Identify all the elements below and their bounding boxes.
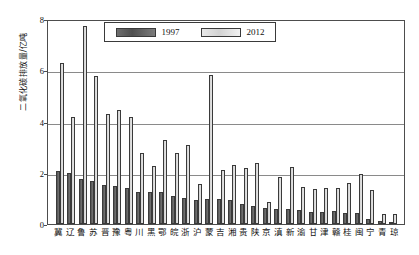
x-tick-label: 晋 <box>99 228 111 237</box>
y-tick-label: 2 <box>34 170 44 179</box>
bar-2012-蒙 <box>209 75 213 224</box>
co2-emissions-bar-chart: 二氧化碳排放量/亿吨 02468 冀辽鲁苏晋豫粤川黑鄂皖浙沪蒙吉湘贵陕京滇新渝甘… <box>0 0 419 255</box>
bar-series-container <box>48 21 404 224</box>
x-tick-label: 贵 <box>238 228 250 237</box>
bar-2012-冀 <box>60 63 64 224</box>
x-tick-label: 粤 <box>122 228 134 237</box>
x-axis-labels: 冀辽鲁苏晋豫粤川黑鄂皖浙沪蒙吉湘贵陕京滇新渝甘津赣桂闽宁青琼 <box>47 228 405 237</box>
x-tick-label: 沪 <box>192 228 204 237</box>
bar-2012-甘 <box>313 189 317 224</box>
bar-group <box>100 21 112 224</box>
x-tick-label: 闽 <box>354 228 366 237</box>
x-tick-label: 陕 <box>250 228 262 237</box>
bar-group <box>181 21 193 224</box>
x-tick-label: 宁 <box>365 228 377 237</box>
x-tick-label: 湘 <box>226 228 238 237</box>
bar-group <box>77 21 89 224</box>
x-tick-label: 豫 <box>111 228 123 237</box>
x-tick-label: 新 <box>284 228 296 237</box>
x-tick-label: 桂 <box>342 228 354 237</box>
bar-2012-贵 <box>244 168 248 224</box>
x-tick-label: 蒙 <box>203 228 215 237</box>
bar-group <box>204 21 216 224</box>
bar-2012-粤 <box>129 117 133 224</box>
bar-group <box>342 21 354 224</box>
y-tick-label: 8 <box>34 16 44 25</box>
bar-2012-沪 <box>198 184 202 224</box>
y-tick-mark <box>44 174 47 175</box>
bar-group <box>365 21 377 224</box>
y-tick-mark <box>44 71 47 72</box>
bar-group <box>89 21 101 224</box>
x-tick-label: 辽 <box>65 228 77 237</box>
x-tick-label: 京 <box>261 228 273 237</box>
x-tick-label: 冀 <box>53 228 65 237</box>
x-tick-label: 滇 <box>273 228 285 237</box>
bar-group <box>376 21 388 224</box>
bar-2012-新 <box>290 167 294 224</box>
bar-group <box>261 21 273 224</box>
bar-group <box>227 21 239 224</box>
bar-group <box>238 21 250 224</box>
y-tick-label: 6 <box>34 67 44 76</box>
bar-group <box>215 21 227 224</box>
x-tick-label: 津 <box>319 228 331 237</box>
bar-2012-鄂 <box>163 140 167 224</box>
bar-2012-桂 <box>347 183 351 224</box>
x-tick-label: 鲁 <box>76 228 88 237</box>
x-tick-label: 吉 <box>215 228 227 237</box>
bar-group <box>284 21 296 224</box>
bar-2012-豫 <box>117 110 121 224</box>
x-tick-label: 黑 <box>146 228 158 237</box>
x-tick-label: 甘 <box>307 228 319 237</box>
x-tick-label: 苏 <box>88 228 100 237</box>
bar-2012-琼 <box>393 214 397 224</box>
x-tick-label: 青 <box>377 228 389 237</box>
legend-item-2012: 2012 <box>201 27 265 37</box>
dark-gray-swatch-icon <box>116 28 156 37</box>
legend-label-2012: 2012 <box>247 27 265 37</box>
bar-group <box>296 21 308 224</box>
bar-2012-皖 <box>175 153 179 224</box>
x-tick-label: 浙 <box>180 228 192 237</box>
bar-2012-闽 <box>359 174 363 224</box>
y-tick-label: 4 <box>34 118 44 127</box>
bar-group <box>250 21 262 224</box>
bar-2012-吉 <box>221 170 225 224</box>
bar-2012-滇 <box>278 177 282 224</box>
x-tick-label: 鄂 <box>157 228 169 237</box>
bar-2012-宁 <box>370 190 374 224</box>
bar-group <box>307 21 319 224</box>
bar-2012-渝 <box>301 187 305 224</box>
bar-group <box>66 21 78 224</box>
bar-group <box>54 21 66 224</box>
x-tick-label: 川 <box>134 228 146 237</box>
bar-group <box>146 21 158 224</box>
plot-area <box>47 20 405 225</box>
x-tick-label: 渝 <box>296 228 308 237</box>
y-tick-mark <box>44 20 47 21</box>
bar-2012-京 <box>267 202 271 224</box>
y-tick-mark <box>44 123 47 124</box>
bar-group <box>273 21 285 224</box>
bar-group <box>123 21 135 224</box>
bar-group <box>330 21 342 224</box>
bar-2012-浙 <box>186 145 190 224</box>
y-tick-mark <box>44 225 47 226</box>
bar-2012-辽 <box>71 117 75 224</box>
y-tick-label: 0 <box>34 221 44 230</box>
bar-group <box>388 21 400 224</box>
bar-group <box>192 21 204 224</box>
bar-2012-赣 <box>336 188 340 224</box>
bar-group <box>353 21 365 224</box>
bar-2012-津 <box>324 188 328 224</box>
x-tick-label: 赣 <box>331 228 343 237</box>
bar-2012-陕 <box>255 163 259 224</box>
legend-label-1997: 1997 <box>162 27 180 37</box>
bar-group <box>169 21 181 224</box>
legend-item-1997: 1997 <box>116 27 180 37</box>
light-gray-swatch-icon <box>201 28 241 37</box>
chart-legend: 1997 2012 <box>104 22 276 42</box>
x-tick-label: 琼 <box>388 228 400 237</box>
bar-2012-鲁 <box>83 26 87 224</box>
